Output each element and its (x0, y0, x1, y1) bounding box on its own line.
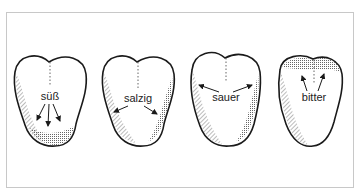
label-bitter: bitter (302, 91, 327, 103)
tongue-sour: sauer (191, 53, 260, 146)
tongue-map-diagram: süß salzig sauer bitter (0, 0, 359, 195)
tongue-salty: salzig (102, 56, 174, 146)
tongue-bitter: bitter (279, 56, 343, 146)
tongue-sweet: süß (14, 56, 86, 146)
label-salzig: salzig (124, 92, 152, 104)
label-sauer: sauer (212, 91, 240, 103)
label-suess: süß (41, 90, 60, 102)
